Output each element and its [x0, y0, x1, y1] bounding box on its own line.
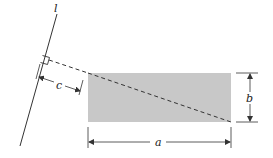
c-extension-right — [79, 80, 83, 95]
c-dimension-arrow-left — [39, 77, 54, 82]
line-l — [20, 14, 57, 146]
perpendicular-dashed-line — [49, 60, 88, 73]
dimension-label-a: a — [155, 136, 162, 149]
c-dimension-arrow-right — [65, 86, 80, 91]
dimension-label-b: b — [246, 92, 253, 105]
line-label-l: l — [54, 2, 58, 15]
geometry-diagram: l c b a — [0, 0, 273, 158]
dimension-label-c: c — [56, 79, 62, 92]
